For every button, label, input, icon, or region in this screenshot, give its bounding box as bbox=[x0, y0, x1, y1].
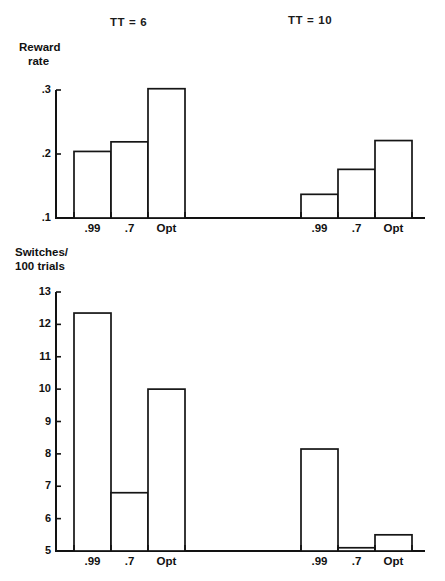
bar bbox=[111, 493, 148, 551]
bottom-ytick-label: 6 bbox=[18, 512, 51, 524]
top-ytick-label: .1 bbox=[18, 211, 51, 223]
bottom-ytick-label: 7 bbox=[18, 479, 51, 491]
bottom-ytick-label: 11 bbox=[18, 350, 51, 362]
bottom-ytick-label: 5 bbox=[18, 544, 51, 556]
bottom-ytick-label: 13 bbox=[18, 285, 51, 297]
bottom-xtick-label: Opt bbox=[367, 555, 420, 567]
bar bbox=[74, 313, 111, 551]
top-xtick-label: Opt bbox=[140, 222, 193, 234]
figure-root: TT = 6 TT = 10 Reward rate Switches/ 100… bbox=[0, 0, 445, 581]
top-ytick-label: .2 bbox=[18, 147, 51, 159]
bottom-chart-plot bbox=[0, 0, 445, 581]
bar bbox=[301, 449, 338, 551]
top-ytick-label: .3 bbox=[18, 83, 51, 95]
bottom-ytick-label: 9 bbox=[18, 415, 51, 427]
bottom-ytick-label: 10 bbox=[18, 382, 51, 394]
bar bbox=[375, 535, 412, 551]
bottom-ytick-label: 8 bbox=[18, 447, 51, 459]
top-xtick-label: Opt bbox=[367, 222, 420, 234]
bar bbox=[148, 389, 185, 551]
bar bbox=[338, 548, 375, 551]
bottom-xtick-label: Opt bbox=[140, 555, 193, 567]
bottom-ytick-label: 12 bbox=[18, 317, 51, 329]
